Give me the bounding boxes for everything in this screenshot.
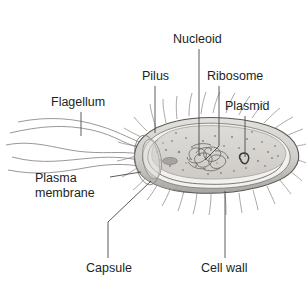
label-plasma-membrane-line2: membrane	[35, 186, 95, 201]
label-cell-wall: Cell wall	[201, 262, 248, 275]
label-ribosome: Ribosome	[207, 70, 263, 83]
label-pilus: Pilus	[142, 70, 169, 83]
flagella-group	[6, 119, 150, 174]
leader-capsule	[108, 181, 151, 258]
bacterial-cell-diagram: Nucleoid Pilus Ribosome Plasmid Flagellu…	[0, 0, 306, 287]
label-plasmid: Plasmid	[225, 100, 269, 113]
leader-plasma-membrane	[110, 172, 141, 177]
label-capsule: Capsule	[86, 262, 132, 275]
label-flagellum: Flagellum	[51, 96, 105, 109]
label-plasma-membrane-line1: Plasma	[35, 171, 95, 186]
diagram-artwork	[0, 0, 306, 287]
label-plasma-membrane: Plasma membrane	[35, 171, 95, 201]
label-nucleoid: Nucleoid	[173, 33, 222, 46]
